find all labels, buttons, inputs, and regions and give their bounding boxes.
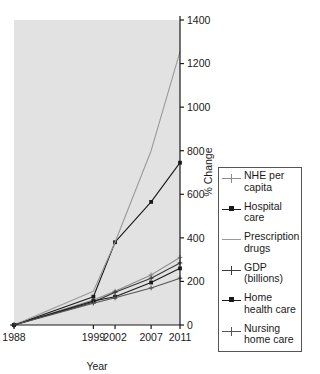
legend-item-label: Homehealth care (244, 290, 301, 315)
legend-item-prescription-drugs[interactable]: Prescriptiondrugs (219, 229, 301, 260)
x-axis-title: Year (86, 360, 108, 372)
legend-marker-icon (222, 296, 241, 305)
x-tick-label: 1999 (82, 331, 106, 343)
plot-area-background (14, 20, 180, 325)
chart-figure: 0200400600800100012001400198819992002200… (0, 0, 320, 374)
legend-marker-icon (222, 174, 241, 183)
y-tick-label: 400 (187, 232, 205, 244)
y-tick-label: 1000 (187, 101, 211, 113)
x-tick-label: 1988 (2, 331, 26, 343)
legend-item-nhe-per-capita[interactable]: NHE percapita (219, 168, 301, 199)
y-tick-label: 0 (187, 319, 193, 331)
y-axis-title: % Change (202, 147, 214, 196)
x-tick-label: 2011 (169, 331, 192, 343)
legend-item-gdp-billions[interactable]: GDP(billions) (219, 260, 301, 291)
legend-marker-icon (222, 327, 241, 336)
legend-item-label: Nursinghome care (244, 321, 301, 346)
legend-item-home-health-care[interactable]: Homehealth care (219, 290, 301, 321)
legend-marker-icon (222, 235, 241, 244)
x-tick-label: 2007 (139, 331, 163, 343)
x-tick-label: 2002 (103, 331, 127, 343)
legend-item-label: Hospitalcare (244, 199, 301, 224)
legend-item-label: NHE percapita (244, 168, 301, 193)
legend-marker-icon (222, 266, 241, 275)
legend-item-label: Prescriptiondrugs (244, 229, 301, 254)
legend-marker-icon (222, 205, 241, 214)
y-tick-label: 200 (187, 275, 205, 287)
legend-item-hospital-care[interactable]: Hospitalcare (219, 199, 301, 230)
chart-legend: NHE percapitaHospitalcarePrescriptiondru… (218, 167, 302, 352)
y-tick-label: 1200 (187, 57, 211, 69)
legend-item-nursing-home-care[interactable]: Nursinghome care (219, 321, 301, 352)
y-tick-label: 1400 (187, 14, 211, 26)
legend-item-label: GDP(billions) (244, 260, 301, 285)
